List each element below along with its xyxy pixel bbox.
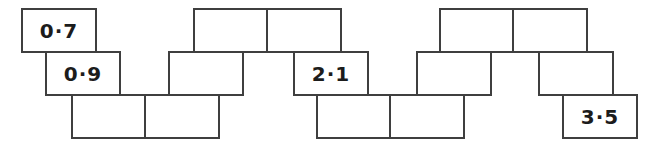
sequence-box-6-blank xyxy=(193,8,269,53)
sequence-box-2-filled: 0·9 xyxy=(45,51,121,96)
box-value: 0·7 xyxy=(40,21,78,41)
sequence-box-11-blank xyxy=(416,51,492,96)
sequence-box-8-filled: 2·1 xyxy=(293,51,369,96)
sequence-box-10-blank xyxy=(389,94,465,139)
box-value: 2·1 xyxy=(312,64,350,84)
box-value: 0·9 xyxy=(64,64,102,84)
sequence-box-4-blank xyxy=(144,94,220,139)
sequence-box-14-blank xyxy=(538,51,614,96)
sequence-box-12-blank xyxy=(439,8,515,53)
sequence-box-9-blank xyxy=(316,94,392,139)
sequence-box-7-blank xyxy=(266,8,342,53)
worksheet-page: 0·70·92·13·5 xyxy=(0,0,649,150)
sequence-box-3-blank xyxy=(71,94,147,139)
sequence-box-15-filled: 3·5 xyxy=(562,94,638,139)
box-value: 3·5 xyxy=(581,107,619,127)
sequence-box-5-blank xyxy=(168,51,244,96)
sequence-box-13-blank xyxy=(512,8,588,53)
sequence-box-1-filled: 0·7 xyxy=(21,8,97,53)
